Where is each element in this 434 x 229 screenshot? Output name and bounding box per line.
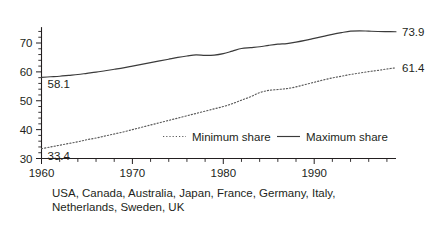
x-axis-tick-label: 1960 — [29, 167, 55, 179]
legend-label-minimum-share: Minimum share — [192, 131, 271, 143]
x-axis-tick-label: 1970 — [120, 167, 146, 179]
annotation-max-start-value: 58.1 — [48, 78, 70, 90]
y-axis-tick-label: 70 — [20, 37, 33, 49]
annotation-min-start-value: 33.4 — [48, 150, 71, 162]
annotation-max-end-value: 73.9 — [402, 26, 424, 38]
y-axis-tick-label: 30 — [20, 153, 33, 165]
y-axis-tick-label: 60 — [20, 66, 33, 78]
x-axis-tick-labels: 1960197019801990 — [29, 167, 327, 179]
y-axis-tick-label: 50 — [20, 95, 33, 107]
caption-line-1: USA, Canada, Australia, Japan, France, G… — [52, 187, 335, 199]
x-axis-major-ticks — [42, 159, 315, 165]
x-axis-tick-label: 1990 — [301, 167, 327, 179]
y-axis-tick-labels: 3040506070 — [20, 37, 33, 165]
chart-container: 3040506070 1960197019801990 58.1 33.4 73… — [0, 0, 434, 229]
series-line-maximum-share — [42, 31, 397, 77]
annotation-min-end-value: 61.4 — [402, 62, 425, 74]
chart-legend: Minimum share Maximum share — [163, 131, 388, 143]
x-axis-tick-label: 1980 — [210, 167, 236, 179]
legend-label-maximum-share: Maximum share — [306, 131, 388, 143]
line-chart: 3040506070 1960197019801990 58.1 33.4 73… — [0, 0, 434, 229]
y-axis-tick-label: 40 — [20, 124, 33, 136]
caption-line-2: Netherlands, Sweden, UK — [52, 201, 185, 213]
